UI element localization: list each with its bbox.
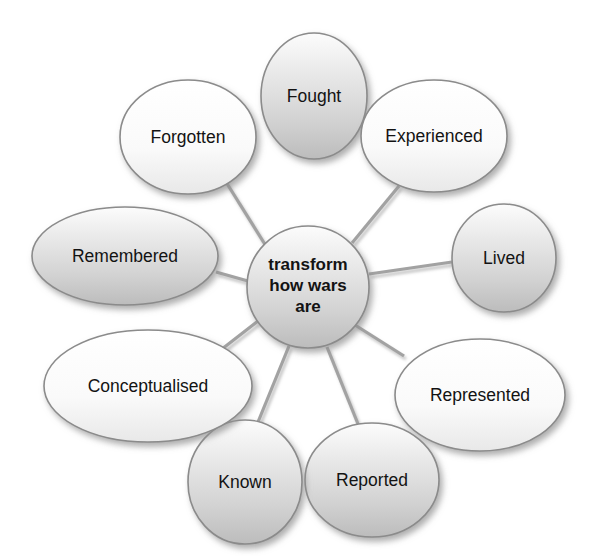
node-label-forgotten: Forgotten <box>151 127 226 147</box>
node-label-fought: Fought <box>287 86 342 106</box>
diagram-canvas: FoughtExperiencedLivedRepresentedReporte… <box>0 0 599 556</box>
node-experienced[interactable]: Experienced <box>361 80 507 192</box>
node-lived[interactable]: Lived <box>452 204 556 312</box>
node-remembered[interactable]: Remembered <box>32 207 218 305</box>
node-label-known: Known <box>218 472 272 492</box>
connector-remembered <box>216 272 248 281</box>
connector-known <box>258 346 289 422</box>
node-conceptualised[interactable]: Conceptualised <box>44 330 252 442</box>
node-represented[interactable]: Represented <box>395 339 565 451</box>
connector-conceptualised <box>222 321 258 349</box>
radial-diagram: FoughtExperiencedLivedRepresentedReporte… <box>0 0 599 556</box>
node-label-reported: Reported <box>336 470 408 490</box>
connector-lived <box>369 262 452 274</box>
center-node: transformhow warsare <box>247 226 369 348</box>
connector-reported <box>327 347 358 424</box>
node-center[interactable]: transformhow warsare <box>247 226 369 348</box>
node-fought[interactable]: Fought <box>261 33 367 159</box>
connector-experienced <box>352 186 399 243</box>
node-forgotten[interactable]: Forgotten <box>120 80 256 194</box>
connector-represented <box>355 325 404 356</box>
node-label-remembered: Remembered <box>72 246 178 266</box>
node-label-experienced: Experienced <box>385 126 482 146</box>
node-known[interactable]: Known <box>188 420 302 544</box>
connector-forgotten <box>226 182 266 246</box>
node-label-lived: Lived <box>483 248 525 268</box>
node-label-represented: Represented <box>430 385 530 405</box>
node-label-conceptualised: Conceptualised <box>88 376 209 396</box>
node-reported[interactable]: Reported <box>305 423 439 537</box>
